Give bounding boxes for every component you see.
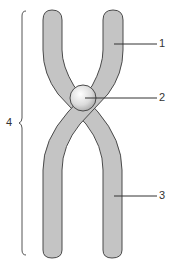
chromosome-diagram: 1 2 3 4 [0, 0, 178, 266]
label-1: 1 [159, 38, 165, 49]
label-2: 2 [159, 92, 165, 103]
chromosome-drawing [0, 0, 178, 266]
label-4: 4 [6, 117, 12, 128]
brace [19, 11, 26, 255]
label-3: 3 [159, 190, 165, 201]
